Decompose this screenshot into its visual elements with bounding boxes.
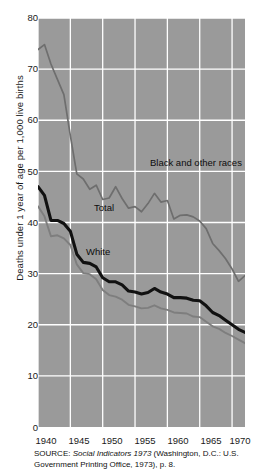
y-tick-label-0: 0 (14, 423, 38, 433)
x-tick-label-1960: 1960 (163, 436, 193, 446)
chart-canvas (38, 18, 245, 427)
x-axis-tick-labels: 1940 1945 1950 1955 1960 1965 1970 (0, 436, 253, 450)
x-tick-label-1955: 1955 (130, 436, 160, 446)
y-tick-label-10: 10 (14, 371, 38, 381)
y-tick-label-30: 30 (14, 269, 38, 279)
series-annotation-black-and-other-races: Black and other races (150, 158, 242, 168)
y-tick-label-40: 40 (14, 218, 38, 228)
x-tick-label-1945: 1945 (64, 436, 94, 446)
x-tick-label-1965: 1965 (196, 436, 226, 446)
y-axis-tick-labels: 80 70 60 50 40 30 20 10 0 (14, 0, 38, 468)
series-annotation-white: White (86, 247, 110, 257)
plot-area: Black and other races Total White (38, 18, 245, 427)
x-tick-label-1970: 1970 (225, 436, 255, 446)
series-annotation-total: Total (94, 203, 114, 213)
y-tick-label-70: 70 (14, 64, 38, 74)
source-prefix: SOURCE: (34, 449, 73, 458)
x-tick-label-1950: 1950 (97, 436, 127, 446)
y-tick-label-80: 80 (14, 13, 38, 23)
y-tick-label-60: 60 (14, 115, 38, 125)
source-publication-title: Social Indicators 1973 (73, 449, 152, 458)
y-tick-label-20: 20 (14, 320, 38, 330)
y-tick-label-50: 50 (14, 167, 38, 177)
source-note: SOURCE: Social Indicators 1973 (Washingt… (34, 449, 253, 470)
x-tick-label-1940: 1940 (31, 436, 61, 446)
